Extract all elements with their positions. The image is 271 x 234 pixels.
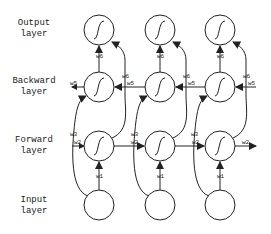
- input-node-2: [145, 190, 175, 220]
- w5-label-1: w5: [127, 80, 135, 87]
- w6-out-label-2: w6: [157, 53, 165, 60]
- w1-label-1: w1: [96, 173, 104, 180]
- timestep-3: [175, 42, 256, 196]
- backward-node-2: [145, 72, 175, 102]
- backward-node-1: [84, 72, 114, 102]
- w6-label-2: w6: [183, 73, 191, 80]
- w5-label-2: w5: [188, 80, 196, 87]
- output-node-3: [205, 15, 235, 45]
- w2-label-4: w2: [242, 139, 250, 146]
- input-node-1: [84, 190, 114, 220]
- w2-label-1: w2: [74, 139, 82, 146]
- forward-node-2: [145, 131, 175, 161]
- w3-label-2: w3: [131, 131, 139, 138]
- backward-node-3: [205, 72, 235, 102]
- output-node-1: [84, 15, 114, 45]
- w6-label-1: w6: [122, 73, 130, 80]
- w5-label-0: w5: [70, 80, 78, 87]
- forward-node-1: [84, 131, 114, 161]
- w3-label-3: w3: [191, 131, 199, 138]
- w1-label-2: w1: [157, 173, 165, 180]
- w6-label-3: w6: [243, 73, 251, 80]
- w5-label-3: w5: [248, 80, 256, 87]
- w1-label-3: w1: [217, 173, 225, 180]
- input-node-3: [205, 190, 235, 220]
- output-node-2: [145, 15, 175, 45]
- w6-out-label-1: w6: [96, 53, 104, 60]
- w3-label-1: w3: [70, 131, 78, 138]
- forward-node-3: [205, 131, 235, 161]
- w6-out-label-3: w6: [217, 53, 225, 60]
- w2-label-2: w2: [131, 139, 139, 146]
- w2-label-3: w2: [192, 139, 200, 146]
- rnn-diagram: w6 w6 w6 w6 w6 w6 w5 w5 w5 w5 w3 w3 w3 w…: [0, 0, 271, 234]
